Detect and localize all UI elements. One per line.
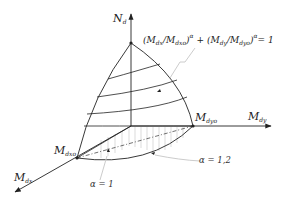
chord-marker	[107, 148, 110, 152]
mdyo-label-sub: dyo	[206, 117, 217, 124]
my-axis-label-main: M	[248, 110, 259, 123]
mdxo-label-main: M	[54, 144, 65, 157]
alpha12-leader	[155, 155, 200, 161]
formula-t1: (M	[143, 35, 156, 45]
formula-plus: +	[194, 35, 207, 45]
mx-axis-label: Mdx	[14, 172, 33, 184]
formula-t2-den-sub: dyo	[239, 39, 250, 46]
interaction-diagram	[0, 0, 285, 202]
n-axis-label: Nd	[113, 13, 126, 25]
mdyo-point	[191, 124, 194, 127]
mx-axis-label-sub: dx	[25, 177, 32, 184]
n-axis-label-sub: d	[123, 18, 127, 25]
mx-axis-label-main: M	[14, 171, 25, 184]
contour-3	[87, 97, 187, 114]
contour-1	[108, 64, 160, 79]
formula-t2-den: /M	[227, 35, 239, 45]
mdyo-label-main: M	[195, 111, 206, 124]
mdxo-label-sub: dxo	[65, 150, 76, 157]
alpha1-annotation: α = 1	[90, 180, 114, 189]
formula-rhs: = 1	[258, 35, 274, 45]
formula-t2: (M	[207, 35, 220, 45]
my-axis-label-sub: dy	[259, 116, 266, 123]
interaction-formula: (Mdx/Mdxo)α + (Mdy/Mdyo)α= 1	[143, 33, 274, 46]
formula-t1-den: /M	[163, 35, 175, 45]
formula-t2-sub: dy	[220, 39, 227, 46]
formula-leader	[170, 48, 195, 78]
mdxo-label: Mdxo	[54, 145, 76, 157]
apex-point	[129, 41, 132, 44]
formula-t1-den-sub: dxo	[175, 39, 186, 46]
surface-marker	[157, 89, 161, 92]
n-axis-label-main: N	[113, 12, 123, 25]
my-axis-label: Mdy	[248, 111, 267, 123]
surface-edge-left	[77, 43, 131, 158]
formula-t1-sub: dx	[156, 39, 163, 46]
alpha12-annotation: α = 1,2	[199, 156, 231, 165]
mdyo-label: Mdyo	[195, 112, 217, 124]
contour-2	[97, 80, 177, 97]
base-hatch	[101, 127, 183, 158]
